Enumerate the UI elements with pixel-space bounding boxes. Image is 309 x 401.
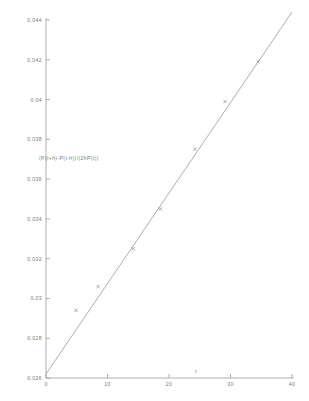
y-tick-label: 0.04: [8, 97, 42, 103]
data-point-marker: [132, 247, 135, 250]
data-point-marker: [223, 100, 226, 103]
y-tick-label: 0.032: [8, 256, 42, 262]
x-tick-label: 10: [104, 381, 110, 387]
axes-lines: [46, 18, 294, 378]
x-tick-marks: [46, 374, 292, 378]
series-line-1: [46, 12, 292, 374]
y-tick-label: 0.028: [8, 335, 42, 341]
data-point-markers: [74, 60, 259, 312]
x-tick-label: 20: [166, 381, 172, 387]
y-tick-label: 0.042: [8, 57, 42, 63]
fitted-line-series: [46, 12, 292, 374]
plot-canvas: [0, 0, 309, 401]
y-tick-label: 0.03: [8, 295, 42, 301]
x-tick-label: 30: [227, 381, 233, 387]
x-tick-label: 40: [289, 381, 295, 387]
x-tick-label: 0: [44, 381, 47, 387]
y-tick-label: 0.036: [8, 176, 42, 182]
y-tick-label: 0.038: [8, 136, 42, 142]
y-tick-label: 0.034: [8, 216, 42, 222]
data-point-marker: [256, 60, 259, 63]
y-tick-marks: [46, 20, 50, 378]
y-tick-label: 0.044: [8, 17, 42, 23]
data-point-marker: [193, 148, 196, 151]
data-point-marker: [159, 207, 162, 210]
data-point-marker: [97, 285, 100, 288]
x-axis-label: t: [195, 368, 197, 374]
data-point-marker: [74, 309, 77, 312]
y-axis-label: (P(t+h)-P(t-h))/(2hP(t)): [39, 155, 99, 161]
y-tick-label: 0.026: [8, 375, 42, 381]
chart-figure: 0.0260.0280.030.0320.0340.0360.0380.040.…: [0, 0, 309, 401]
